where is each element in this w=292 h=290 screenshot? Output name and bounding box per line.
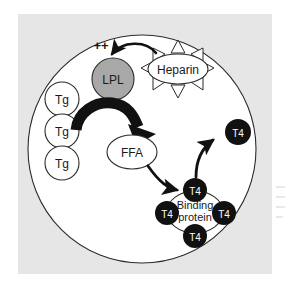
tg-label: Tg	[55, 125, 69, 139]
figure-container: Heparin ++ LPL Tg Tg Tg	[0, 0, 292, 290]
t4-label: T4	[218, 209, 230, 220]
t4-bound-left: T4	[155, 201, 179, 225]
ffa-node: FFA	[107, 135, 157, 169]
lpl-label: LPL	[102, 73, 124, 87]
t4-bound-right: T4	[212, 201, 236, 225]
t4-label: T4	[189, 232, 201, 243]
t4-label: T4	[189, 186, 201, 197]
t4-bound-top: T4	[183, 178, 207, 202]
diagram-canvas: Heparin ++ LPL Tg Tg Tg	[0, 0, 292, 290]
tg-circle-1: Tg	[45, 82, 79, 116]
t4-bound-bottom: T4	[183, 224, 207, 248]
t4-label: T4	[232, 128, 244, 139]
tg-circle-3: Tg	[45, 146, 79, 180]
ffa-label: FFA	[121, 146, 143, 160]
activation-plus-symbol: ++	[93, 38, 109, 53]
tg-label: Tg	[55, 93, 69, 107]
triglyceride-group: Tg Tg Tg	[45, 82, 79, 180]
heparin-label: Heparin	[157, 63, 199, 77]
free-thyroxine-node: T4	[225, 119, 251, 145]
t4-label: T4	[161, 209, 173, 220]
lpl-node: LPL	[92, 58, 134, 100]
binding-protein-label-line2: protein	[178, 211, 212, 223]
tg-label: Tg	[55, 157, 69, 171]
